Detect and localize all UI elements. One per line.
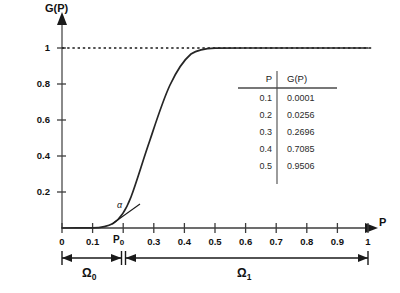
y-tick-label-0.6: 0.6 — [16, 114, 50, 125]
omega1-label-main: Ω — [237, 266, 247, 280]
y-axis-title: G(P) — [45, 2, 68, 14]
x-tick-label-0.4: 0.4 — [171, 236, 197, 247]
table-header-gp: G(P) — [287, 73, 333, 84]
x-tick-label-1: 1 — [355, 236, 381, 247]
x-axis-title: P — [379, 216, 386, 228]
chart-figure: G(P) P 0.2 0.4 0.6 0.8 1 0 0.1 P0 0.3 0.… — [0, 0, 400, 293]
table-cell-gp: 0.7085 — [287, 144, 333, 154]
p0-label-main: P — [113, 234, 120, 245]
table-cell-gp: 0.2696 — [287, 127, 333, 137]
omega0-label-subscript: 0 — [92, 272, 97, 282]
x-tick-label-0.1: 0.1 — [80, 236, 106, 247]
plot-canvas — [0, 0, 400, 293]
table-cell-gp: 0.9506 — [287, 161, 333, 171]
p0-label-subscript: 0 — [120, 238, 124, 247]
table-header-p: P — [238, 73, 272, 84]
omega0-range-indicator — [62, 251, 122, 265]
y-tick-label-0.8: 0.8 — [16, 78, 50, 89]
omega1-range-indicator — [126, 251, 369, 265]
y-tick-label-0.2: 0.2 — [16, 186, 50, 197]
x-tick-label-0.5: 0.5 — [202, 236, 228, 247]
p0-axis-label: P0 — [113, 234, 124, 247]
omega1-label: Ω1 — [237, 266, 251, 282]
table-cell-p: 0.1 — [238, 93, 272, 103]
table-cell-gp: 0.0001 — [287, 93, 333, 103]
table-cell-p: 0.5 — [238, 161, 272, 171]
table-cell-p: 0.3 — [238, 127, 272, 137]
x-tick-label-0.9: 0.9 — [324, 236, 350, 247]
y-tick-label-0.4: 0.4 — [16, 150, 50, 161]
omega0-label-main: Ω — [82, 266, 92, 280]
omega0-label: Ω0 — [82, 266, 96, 282]
table-cell-p: 0.2 — [238, 110, 272, 120]
x-tick-label-0.7: 0.7 — [263, 236, 289, 247]
y-tick-label-1: 1 — [16, 42, 50, 53]
table-cell-gp: 0.0256 — [287, 110, 333, 120]
x-tick-label-0: 0 — [49, 236, 75, 247]
x-tick-label-0.3: 0.3 — [141, 236, 167, 247]
x-tick-label-0.6: 0.6 — [233, 236, 259, 247]
omega1-label-subscript: 1 — [247, 272, 252, 282]
alpha-annotation-label: α — [117, 200, 122, 210]
x-tick-label-0.8: 0.8 — [294, 236, 320, 247]
table-cell-p: 0.4 — [238, 144, 272, 154]
x-axis-arrow-icon — [365, 223, 378, 233]
